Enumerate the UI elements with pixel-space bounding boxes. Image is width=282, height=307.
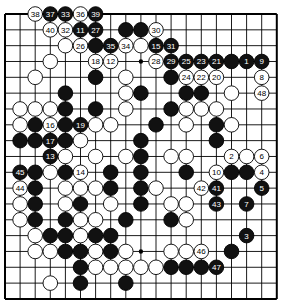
move-number-label: 2 bbox=[229, 152, 234, 161]
white-stone-circle bbox=[58, 181, 73, 196]
white-stone bbox=[43, 54, 58, 69]
white-stone bbox=[58, 181, 73, 196]
black-stone: 15 bbox=[149, 38, 164, 53]
black-stone: 7 bbox=[239, 197, 254, 212]
black-stone-circle bbox=[58, 228, 73, 243]
white-stone bbox=[13, 118, 28, 133]
black-stone bbox=[58, 118, 73, 133]
black-stone-circle bbox=[164, 70, 179, 85]
move-number-label: 21 bbox=[212, 57, 221, 66]
black-stone bbox=[28, 212, 43, 227]
white-stone bbox=[239, 149, 254, 164]
black-stone-circle bbox=[134, 23, 149, 38]
black-stone-circle bbox=[58, 118, 73, 133]
move-number-label: 42 bbox=[197, 184, 206, 193]
white-stone-circle bbox=[13, 212, 28, 227]
black-stone bbox=[119, 212, 134, 227]
black-stone bbox=[134, 197, 149, 212]
black-stone: 17 bbox=[43, 133, 58, 148]
white-stone bbox=[73, 212, 88, 227]
white-stone bbox=[28, 102, 43, 117]
white-stone: 10 bbox=[209, 165, 224, 180]
white-stone-circle bbox=[13, 118, 28, 133]
move-number-label: 29 bbox=[167, 57, 176, 66]
black-stone-circle bbox=[224, 244, 239, 259]
black-stone bbox=[103, 228, 118, 243]
white-stone-circle bbox=[119, 244, 134, 259]
black-stone: 13 bbox=[43, 149, 58, 164]
move-number-label: 31 bbox=[167, 42, 176, 51]
black-stone-circle bbox=[58, 102, 73, 117]
white-stone-circle bbox=[239, 149, 254, 164]
white-stone bbox=[13, 102, 28, 117]
black-stone-circle bbox=[103, 244, 118, 259]
move-number-label: 19 bbox=[76, 121, 85, 130]
black-stone: 25 bbox=[179, 54, 194, 69]
black-stone bbox=[28, 118, 43, 133]
white-stone: 18 bbox=[88, 54, 103, 69]
black-stone: 33 bbox=[58, 7, 73, 22]
white-stone-circle bbox=[43, 165, 58, 180]
white-stone bbox=[43, 276, 58, 291]
white-stone bbox=[119, 244, 134, 259]
move-number-label: 30 bbox=[152, 26, 161, 35]
white-stone bbox=[149, 181, 164, 196]
black-stone bbox=[164, 212, 179, 227]
white-stone: 32 bbox=[58, 23, 73, 38]
black-stone-circle bbox=[194, 260, 209, 275]
white-stone bbox=[224, 118, 239, 133]
black-stone bbox=[179, 165, 194, 180]
black-stone bbox=[58, 244, 73, 259]
white-stone bbox=[103, 197, 118, 212]
move-number-label: 26 bbox=[76, 42, 85, 51]
black-stone-circle bbox=[119, 212, 134, 227]
white-stone-circle bbox=[149, 260, 164, 275]
move-number-label: 16 bbox=[46, 121, 55, 130]
black-stone bbox=[88, 70, 103, 85]
white-stone: 30 bbox=[149, 23, 164, 38]
black-stone bbox=[58, 212, 73, 227]
move-number-label: 48 bbox=[257, 89, 266, 98]
black-stone-circle bbox=[73, 244, 88, 259]
black-stone-circle bbox=[164, 212, 179, 227]
black-stone: 23 bbox=[194, 54, 209, 69]
move-number-label: 17 bbox=[46, 137, 55, 146]
white-stone bbox=[119, 149, 134, 164]
white-stone bbox=[119, 102, 134, 117]
white-stone bbox=[194, 102, 209, 117]
black-stone: 19 bbox=[73, 118, 88, 133]
move-number-label: 40 bbox=[46, 26, 55, 35]
black-stone bbox=[73, 260, 88, 275]
black-stone bbox=[58, 228, 73, 243]
white-stone-circle bbox=[73, 181, 88, 196]
move-number-label: 14 bbox=[76, 168, 85, 177]
white-stone bbox=[103, 118, 118, 133]
white-stone bbox=[88, 181, 103, 196]
black-stone: 1 bbox=[239, 54, 254, 69]
move-number-label: 38 bbox=[31, 10, 40, 19]
white-stone: 28 bbox=[149, 54, 164, 69]
black-stone-circle bbox=[28, 133, 43, 148]
black-stone-circle bbox=[224, 54, 239, 69]
black-stone bbox=[134, 86, 149, 101]
black-stone bbox=[179, 86, 194, 101]
black-stone-circle bbox=[28, 212, 43, 227]
black-stone-circle bbox=[149, 118, 164, 133]
black-stone bbox=[209, 133, 224, 148]
black-stone bbox=[88, 102, 103, 117]
white-stone: 6 bbox=[254, 149, 269, 164]
black-stone-circle bbox=[164, 102, 179, 117]
black-stone bbox=[164, 70, 179, 85]
black-stone-circle bbox=[103, 165, 118, 180]
white-stone-circle bbox=[28, 244, 43, 259]
white-stone: 20 bbox=[209, 70, 224, 85]
black-stone-circle bbox=[134, 133, 149, 148]
white-stone: 36 bbox=[73, 7, 88, 22]
move-number-label: 27 bbox=[91, 26, 100, 35]
move-number-label: 6 bbox=[259, 152, 264, 161]
white-stone-circle bbox=[58, 38, 73, 53]
black-stone-circle bbox=[209, 118, 224, 133]
black-stone bbox=[28, 181, 43, 196]
black-stone bbox=[13, 133, 28, 148]
white-stone: 12 bbox=[103, 54, 118, 69]
